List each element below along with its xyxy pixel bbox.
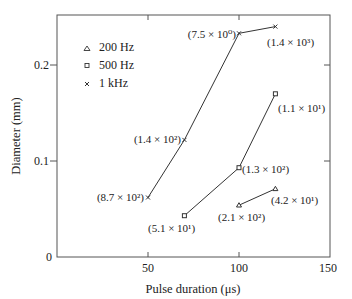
legend-label-200hz: 200 Hz <box>99 40 134 54</box>
series-500hz <box>182 92 277 218</box>
x-tick-label-100: 100 <box>230 261 248 275</box>
y-tick-label-0-2: 0.2 <box>34 58 49 72</box>
annotation-200hz-100: (2.1 × 10²) <box>218 211 265 224</box>
legend: 200 Hz 500 Hz 1 kHz <box>84 40 134 90</box>
annotation-1khz-70: (1.4 × 10²) <box>134 133 181 146</box>
legend-label-500hz: 500 Hz <box>99 58 134 72</box>
annotation-500hz-120: (1.1 × 10¹) <box>278 102 325 115</box>
x-marker-icon <box>85 82 89 86</box>
annotation-500hz-100: (1.3 × 10²) <box>242 163 289 176</box>
y-tick-label-0-1: 0.1 <box>34 154 49 168</box>
chart: 50 100 150 0 0.1 0.2 Pulse duration (μs)… <box>0 0 352 299</box>
triangle-marker-icon <box>84 46 90 51</box>
legend-label-1khz: 1 kHz <box>99 76 128 90</box>
annotation-1khz-120: (1.4 × 10³) <box>267 36 314 49</box>
square-marker-icon <box>85 64 89 68</box>
y-tick-label-0: 0 <box>46 250 52 264</box>
plot-frame <box>57 15 330 257</box>
axis-ticks <box>50 15 330 257</box>
annotation-500hz-70: (5.1 × 10¹) <box>148 222 195 235</box>
annotation-200hz-120: (4.2 × 10¹) <box>271 194 318 207</box>
x-tick-label-50: 50 <box>142 261 154 275</box>
annotation-1khz-100: (7.5 × 10⁰) <box>188 28 237 41</box>
y-axis-label: Diameter (mm) <box>9 97 23 174</box>
x-tick-label-150: 150 <box>319 261 337 275</box>
annotation-1khz-50: (8.7 × 10²) <box>97 191 144 204</box>
x-axis-label: Pulse duration (μs) <box>146 282 241 296</box>
